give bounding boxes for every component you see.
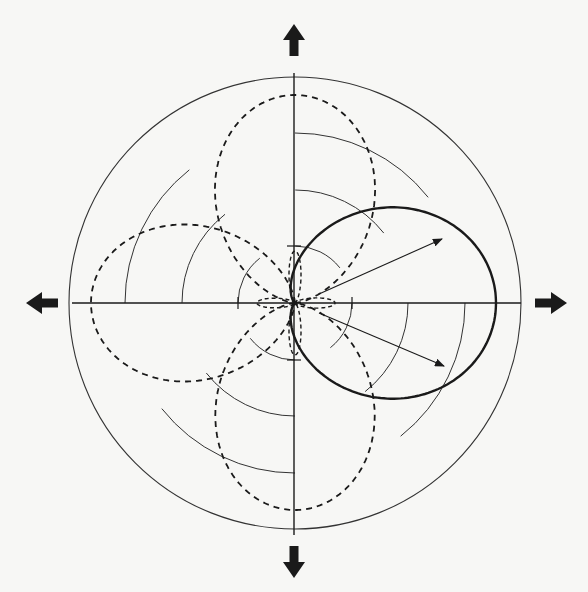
lobe-up [215, 95, 375, 303]
polar-pattern-diagram [0, 0, 588, 592]
scanned-page [0, 0, 588, 592]
arrow-left-icon [26, 292, 58, 314]
arrow-down-icon [283, 546, 305, 578]
arrow-right-icon [535, 292, 567, 314]
arrow-up-icon [283, 24, 305, 56]
vector-upper [319, 239, 442, 294]
lobe-down [215, 303, 374, 510]
vector-lower [319, 313, 444, 366]
